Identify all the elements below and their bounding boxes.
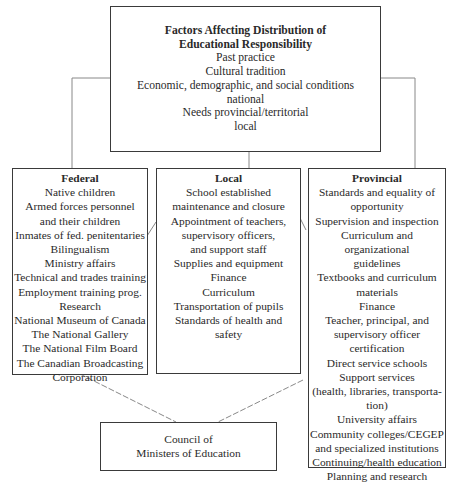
list-item: The National Film Board — [13, 341, 147, 355]
council-box: Council of Ministers of Education — [100, 422, 277, 471]
list-item: School established — [157, 185, 300, 199]
connector-federal-local — [147, 222, 156, 236]
list-item: The National Gallery — [13, 327, 147, 341]
list-item: national — [111, 93, 380, 107]
connector-provincial-council — [218, 380, 303, 422]
federal-box: Federal Native childrenArmed forces pers… — [12, 168, 148, 375]
list-item: Appointment of teachers, — [157, 214, 300, 228]
list-item: Armed forces personnel — [13, 199, 147, 213]
list-item: supervisory officers, — [157, 228, 300, 242]
council-label-line2: Ministers of Education — [101, 446, 276, 460]
federal-list: Native childrenArmed forces personneland… — [13, 185, 147, 384]
list-item: Economic, demographic, and social condit… — [111, 79, 380, 93]
list-item: Bilingualism — [13, 242, 147, 256]
list-item: Teacher, principal, and — [309, 313, 445, 327]
list-item: Native children — [13, 185, 147, 199]
list-item: Planning and research — [309, 469, 445, 483]
list-item: Community colleges/CEGEP — [309, 427, 445, 441]
provincial-title: Provincial — [309, 171, 445, 185]
list-item: maintenance and closure — [157, 199, 300, 213]
list-item: Technical and trades training — [13, 270, 147, 284]
connector-factors-federal — [72, 78, 110, 168]
list-item: organizational — [309, 242, 445, 256]
list-item: local — [111, 120, 380, 134]
list-item: Inmates of fed. penitentaries — [13, 228, 147, 242]
list-item: certification — [309, 341, 445, 355]
list-item: Finance — [309, 299, 445, 313]
list-item: (health, libraries, transporta- — [309, 384, 445, 398]
list-item: Transportation of pupils — [157, 299, 300, 313]
council-label-line1: Council of — [101, 432, 276, 446]
list-item: materials — [309, 285, 445, 299]
factors-list: Past practice Cultural tradition Economi… — [111, 51, 380, 133]
list-item: tion) — [309, 398, 445, 412]
factors-box: Factors Affecting Distribution of Educat… — [110, 6, 381, 152]
list-item: Supplies and equipment — [157, 256, 300, 270]
local-box: Local School establishedmaintenance and … — [156, 168, 301, 374]
list-item: Supervision and inspection — [309, 214, 445, 228]
list-item: Finance — [157, 270, 300, 284]
list-item: Continuing/health education — [309, 455, 445, 469]
list-item: Curriculum — [157, 285, 300, 299]
list-item: Ministry affairs — [13, 256, 147, 270]
list-item: safety — [157, 327, 300, 341]
list-item: Corporation — [13, 370, 147, 384]
provincial-list: Standards and equality ofopportunitySupe… — [309, 185, 445, 483]
list-item: Direct service schools — [309, 356, 445, 370]
local-list: School establishedmaintenance and closur… — [157, 185, 300, 341]
connector-factors-provincial — [381, 78, 415, 168]
list-item: Employment training prog. — [13, 285, 147, 299]
list-item: guidelines — [309, 256, 445, 270]
list-item: Cultural tradition — [111, 65, 380, 79]
list-item: National Museum of Canada — [13, 313, 147, 327]
list-item: Curriculum and — [309, 228, 445, 242]
list-item: Standards and equality of — [309, 185, 445, 199]
provincial-box: Provincial Standards and equality ofoppo… — [308, 168, 446, 468]
list-item: opportunity — [309, 199, 445, 213]
list-item: and specialized institutions — [309, 441, 445, 455]
federal-title: Federal — [13, 171, 147, 185]
list-item: supervisory officer — [309, 327, 445, 341]
local-title: Local — [157, 171, 300, 185]
list-item: Needs provincial/territorial — [111, 106, 380, 120]
list-item: Research — [13, 299, 147, 313]
list-item: Standards of health and — [157, 313, 300, 327]
list-item: The Canadian Broadcasting — [13, 356, 147, 370]
list-item: and support staff — [157, 242, 300, 256]
list-item: Textbooks and curriculum — [309, 270, 445, 284]
list-item: Past practice — [111, 51, 380, 65]
list-item: University affairs — [309, 412, 445, 426]
list-item: and their children — [13, 214, 147, 228]
list-item: Support services — [309, 370, 445, 384]
factors-title: Factors Affecting Distribution of Educat… — [111, 24, 380, 51]
